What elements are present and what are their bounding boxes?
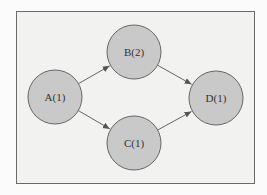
diagram-canvas: A(1)B(2)C(1)D(1) bbox=[0, 0, 267, 195]
node-label: D(1) bbox=[206, 92, 227, 105]
node-c: C(1) bbox=[107, 116, 161, 170]
edge-b-d bbox=[158, 65, 192, 84]
node-b: B(2) bbox=[107, 25, 161, 79]
edge-a-b bbox=[78, 66, 109, 84]
edge-a-c bbox=[78, 111, 109, 129]
edge-c-d bbox=[158, 111, 192, 130]
node-label: B(2) bbox=[124, 46, 145, 59]
node-label: A(1) bbox=[45, 91, 66, 104]
node-label: C(1) bbox=[124, 137, 145, 150]
node-a: A(1) bbox=[28, 70, 82, 124]
node-d: D(1) bbox=[189, 71, 243, 125]
